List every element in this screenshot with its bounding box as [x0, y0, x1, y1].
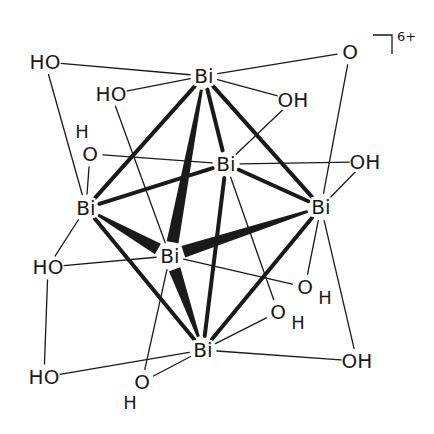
thin-bond: [55, 220, 78, 256]
thin-bond: [240, 162, 352, 164]
thin-bond: [154, 357, 191, 376]
atom-label-bi_back: Bi: [216, 154, 235, 174]
hydrogen-label-h_left_back: H: [75, 123, 89, 141]
atom-label-o_tl2: HO: [96, 84, 127, 104]
charge-bracket: [373, 35, 392, 54]
metal-bond: [205, 178, 225, 336]
atom-label-bi_left: Bi: [76, 198, 95, 218]
atom-label-o_right_mid2: O: [270, 302, 286, 322]
thin-bond: [215, 318, 266, 344]
atom-label-o_right_back: OH: [350, 152, 381, 172]
thin-bond: [324, 221, 354, 349]
atom-label-o_bottom_l: HO: [29, 367, 60, 387]
atom-label-o_right_mid1: O: [297, 277, 313, 297]
thin-bond: [236, 109, 283, 154]
thin-bond: [103, 155, 212, 163]
atom-label-o_bottom_r: OH: [342, 351, 373, 371]
atom-label-o_tr: O: [342, 42, 358, 62]
thin-bond: [57, 352, 189, 374]
atom-label-o_left_mid: HO: [33, 257, 64, 277]
thin-bond: [218, 80, 281, 97]
atom-label-bi_right: Bi: [311, 197, 330, 217]
hydrogen-label-h_bottom_c: H: [123, 394, 137, 412]
thin-bond: [44, 280, 47, 364]
atom-label-o_bottom_c: O: [134, 372, 150, 392]
atom-label-bi_bottom: Bi: [193, 340, 212, 360]
hydrogen-label-h_right_mid1: H: [318, 289, 332, 307]
metal-bond: [207, 90, 222, 151]
atom-label-bi_front: Bi: [160, 246, 179, 266]
thin-bond: [308, 221, 319, 275]
thin-bond: [58, 63, 190, 75]
thin-bond: [331, 171, 356, 197]
charge-label: 6+: [397, 30, 416, 43]
thin-bond: [218, 54, 337, 74]
thin-bond: [87, 167, 89, 194]
thin-bond: [61, 257, 156, 266]
metal-bond: [239, 170, 308, 201]
hydrogen-label-h_right_mid2: H: [291, 314, 305, 332]
thin-bond: [124, 79, 190, 92]
atom-label-o_top_r: OH: [278, 90, 309, 110]
atom-label-o_left_back: O: [82, 144, 98, 164]
atom-label-o_tl: HO: [30, 52, 61, 72]
atom-label-bi_top: Bi: [194, 66, 213, 86]
thin-bond: [217, 351, 344, 360]
thin-bond: [324, 65, 348, 193]
